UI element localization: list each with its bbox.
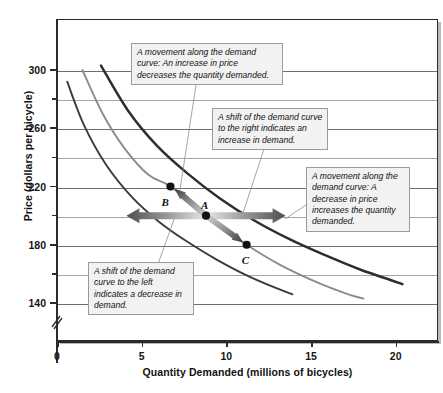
- callout-movement-increase-price: A movement along the demand curve: An in…: [131, 43, 283, 85]
- y-axis-title: Price (dollars per bicycle): [22, 81, 34, 231]
- x-tick-15: [311, 341, 313, 347]
- gridline-280: [58, 100, 437, 101]
- y-tick-220: [50, 186, 57, 188]
- x-tick-label-20: 20: [383, 350, 409, 362]
- y-tick-180: [50, 244, 57, 246]
- point-label-c: C: [242, 254, 249, 266]
- callout-movement-decrease-price: A movement along the demand curve: A dec…: [306, 167, 410, 232]
- x-tick-label-10: 10: [213, 350, 239, 362]
- axis-break-icon: [51, 314, 65, 334]
- x-tick-label-15: 15: [298, 350, 324, 362]
- x-tick-label-5: 5: [129, 350, 155, 362]
- gridline-240: [58, 158, 437, 159]
- y-tick-140: [50, 302, 57, 304]
- x-tick-0: [57, 341, 59, 347]
- point-label-a: A: [201, 199, 208, 211]
- callout-shift-left: A shift of the demand curve to the left …: [88, 262, 194, 315]
- point-label-b: B: [161, 196, 168, 208]
- y-tick-minor-200: [52, 215, 57, 217]
- x-tick-label-0: 0: [44, 350, 70, 362]
- x-tick-5: [142, 341, 144, 347]
- x-tick-10: [226, 341, 228, 347]
- callout-shift-right: A shift of the demand curve to the right…: [212, 108, 328, 150]
- y-tick-260: [50, 127, 57, 129]
- x-axis-line: [56, 341, 439, 343]
- y-tick-label-140: 140: [12, 297, 46, 309]
- figure-container: 140180220260300 05101520 Price (dollars …: [0, 0, 443, 393]
- y-tick-minor-280: [52, 98, 57, 100]
- y-tick-minor-240: [52, 157, 57, 159]
- y-tick-minor-160: [52, 273, 57, 275]
- y-tick-300: [50, 69, 57, 71]
- x-axis-title: Quantity Demanded (millions of bicycles): [57, 366, 438, 378]
- gridline-180: [58, 246, 437, 247]
- y-tick-label-180: 180: [12, 239, 46, 251]
- x-tick-20: [396, 341, 398, 347]
- y-tick-label-300: 300: [12, 64, 46, 76]
